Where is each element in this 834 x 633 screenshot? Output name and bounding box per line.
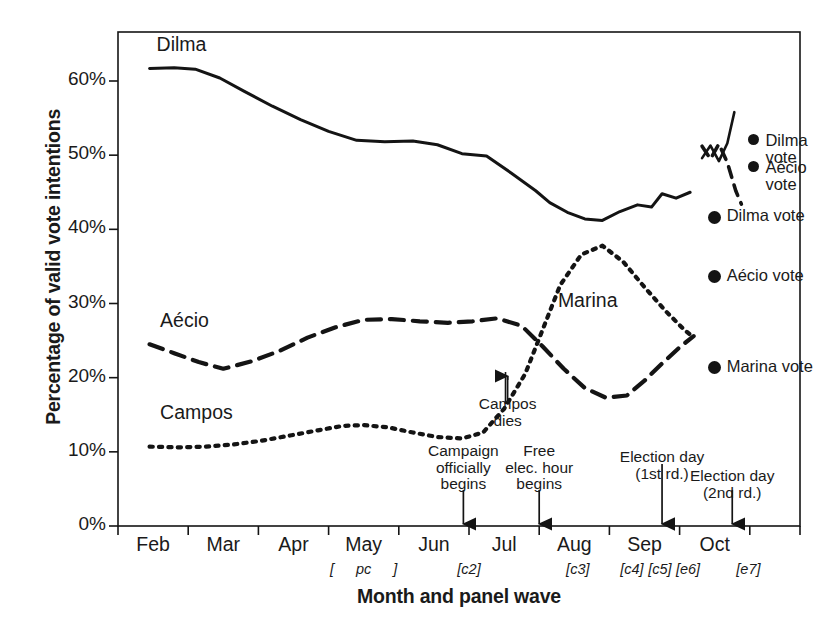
series-label-dilma: Dilma <box>157 34 207 56</box>
annotation-campos: Campos dies <box>479 396 537 429</box>
vote-dot-icon <box>708 361 721 374</box>
y-axis-tick-labels: 60%50%40%30%20%10%0% <box>28 0 106 633</box>
vote-dot-icon <box>708 211 721 224</box>
annotation-campaign: Campaign officially begins <box>428 443 499 493</box>
series-line-dilma <box>150 68 691 221</box>
x-tick-label-jul: Jul <box>492 534 517 556</box>
x-tick-label-may: May <box>345 534 382 556</box>
panel-wave-label: [c4] <box>620 561 643 577</box>
panel-wave-label: ] <box>393 561 397 577</box>
x-tick-label-oct: Oct <box>700 534 730 556</box>
x-tick-label-mar: Mar <box>207 534 241 556</box>
y-tick-label: 20% <box>28 365 106 386</box>
vote-marker-a-cio-rd2: Aécio vote <box>748 159 806 194</box>
vote-marker-label: Dilma vote <box>727 207 805 224</box>
panel-wave-label: pc <box>356 561 371 577</box>
annotation-election-day: Election day (2nd rd.) <box>690 468 774 501</box>
y-tick-label: 30% <box>28 291 106 312</box>
y-tick-label: 10% <box>28 439 106 460</box>
vote-marker-marina-vote-rd1: Marina vote <box>708 358 813 375</box>
vote-dot-icon <box>708 270 721 283</box>
y-tick-label: 40% <box>28 216 106 237</box>
x-tick-label-sep: Sep <box>627 534 662 556</box>
y-tick-label: 50% <box>28 142 106 163</box>
vote-marker-label: Aécio vote <box>727 267 804 284</box>
x-tick-label-jun: Jun <box>418 534 449 556</box>
panel-wave-label: [c2] <box>457 561 480 577</box>
vote-dot-icon <box>748 161 759 172</box>
vote-marker-dilma-vote-rd1: Dilma vote <box>708 207 805 224</box>
series-label-marina: Marina <box>558 290 618 312</box>
x-tick-label-aug: Aug <box>557 534 592 556</box>
series-label-aecio: Aécio <box>160 310 209 332</box>
x-axis-title: Month and panel wave <box>118 586 800 608</box>
chart-canvas: Percentage of valid vote intentions 60%5… <box>0 0 834 633</box>
x-tick-label-apr: Apr <box>278 534 308 556</box>
series-label-campos: Campos <box>160 402 233 424</box>
vote-dot-icon <box>748 134 759 145</box>
series-line-aécio <box>150 318 694 397</box>
panel-wave-label: [c5] <box>648 561 671 577</box>
vote-marker-label: Aécio vote <box>765 159 806 194</box>
y-tick-label: 0% <box>28 513 106 534</box>
annotation-free: Free elec. hour begins <box>505 443 573 493</box>
panel-wave-label: [e7] <box>736 561 760 577</box>
panel-wave-label: [c3] <box>566 561 589 577</box>
panel-wave-label: [ <box>330 561 334 577</box>
y-tick-label: 60% <box>28 68 106 89</box>
vote-marker-label: Marina vote <box>727 358 813 375</box>
runoff-line-aécio-runoff <box>702 144 741 204</box>
vote-marker-a-cio-vote-rd1: Aécio vote <box>708 267 804 284</box>
x-tick-label-feb: Feb <box>136 534 170 556</box>
panel-wave-label: [e6] <box>676 561 700 577</box>
